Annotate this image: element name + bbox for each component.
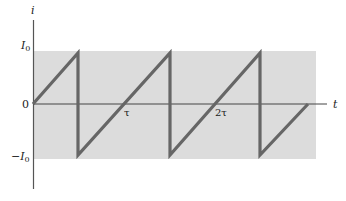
y-tick-i0: I0 bbox=[20, 39, 30, 53]
x-tick-tau: τ bbox=[124, 107, 130, 118]
x-axis-label: t bbox=[333, 98, 338, 111]
y-tick-zero: 0 bbox=[22, 98, 29, 111]
y-axis-label: i bbox=[31, 4, 35, 17]
sawtooth-chart: i t I0 0 −I0 τ 2τ bbox=[0, 0, 346, 201]
y-tick-neg-i0: −I0 bbox=[11, 150, 30, 164]
x-tick-2tau: 2τ bbox=[215, 107, 227, 118]
